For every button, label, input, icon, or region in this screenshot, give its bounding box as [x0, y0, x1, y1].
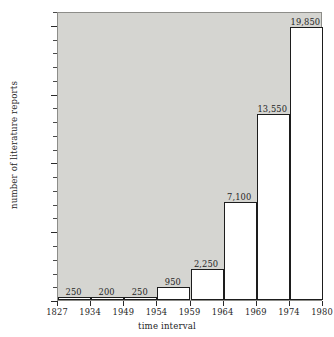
bar-value-label: 13,550 — [257, 104, 287, 114]
x-tick-label: 1827 — [46, 307, 68, 317]
x-tick-label: 1980 — [311, 307, 333, 317]
bar-value-label: 200 — [99, 287, 115, 297]
x-tick-label: 1969 — [245, 307, 267, 317]
x-tick-label: 1964 — [212, 307, 234, 317]
x-tick-label: 1934 — [79, 307, 101, 317]
x-tick-label: 1974 — [278, 307, 300, 317]
x-tick — [223, 301, 224, 306]
bar — [91, 297, 124, 300]
bar-value-label: 950 — [165, 277, 181, 287]
x-axis-title: time interval — [0, 321, 334, 331]
bars-layer — [58, 13, 321, 300]
x-tick — [322, 301, 323, 306]
bar — [224, 202, 257, 300]
bar-value-label: 2,250 — [194, 259, 218, 269]
bar-value-label: 19,850 — [291, 17, 321, 27]
bar — [290, 27, 323, 300]
x-tick — [57, 301, 58, 306]
bar — [58, 297, 91, 300]
y-axis: number of literature reports 5,00010,000… — [0, 0, 57, 337]
x-tick-label: 1954 — [146, 307, 168, 317]
x-axis: 182719341949195419591964196919741980 tim… — [0, 301, 334, 337]
x-tick — [256, 301, 257, 306]
x-tick-label: 1959 — [179, 307, 201, 317]
bar-value-label: 7,100 — [227, 192, 251, 202]
x-tick-label: 1949 — [113, 307, 135, 317]
bar-value-label: 250 — [132, 287, 148, 297]
x-tick — [123, 301, 124, 306]
x-tick — [156, 301, 157, 306]
bar — [257, 114, 290, 301]
bar — [157, 287, 190, 300]
plot-area — [57, 12, 322, 301]
y-axis-title: number of literature reports — [9, 65, 19, 225]
x-tick — [90, 301, 91, 306]
bar-chart-figure: number of literature reports 5,00010,000… — [0, 0, 334, 337]
bar — [124, 297, 157, 300]
x-tick — [289, 301, 290, 306]
bar — [191, 269, 224, 300]
x-tick — [190, 301, 191, 306]
bar-value-label: 250 — [66, 287, 82, 297]
